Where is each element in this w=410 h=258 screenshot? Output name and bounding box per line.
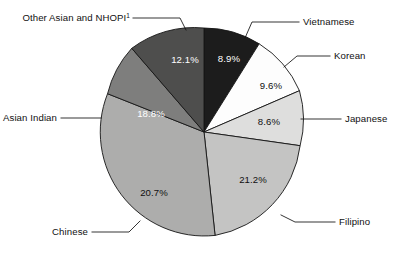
leader-line-chinese (92, 221, 140, 232)
value-label-vietnamese: 8.9% (218, 53, 241, 64)
category-label-other-asian-nhopi: Other Asian and NHOPI1 (22, 12, 130, 23)
leader-line-vietnamese (245, 22, 299, 38)
value-label-japanese: 8.6% (258, 116, 281, 127)
leader-line-other-asian-nhopi (133, 18, 186, 30)
category-label-filipino: Filipino (339, 216, 370, 227)
leader-line-filipino (281, 215, 335, 222)
category-label-korean: Korean (334, 50, 366, 61)
value-label-asian-indian: 18.8% (137, 108, 165, 119)
category-label-japanese: Japanese (345, 113, 387, 124)
value-label-filipino: 21.2% (239, 174, 267, 185)
category-label-vietnamese: Vietnamese (303, 16, 355, 27)
value-label-other-asian-nhopi: 12.1% (171, 54, 199, 65)
pie-chart-svg: 8.9% 9.6% 8.6% 21.2% 20.7% 18.8% 12.1% O… (0, 0, 410, 258)
leader-line-korean (284, 56, 330, 67)
pie-chart-figure: 8.9% 9.6% 8.6% 21.2% 20.7% 18.8% 12.1% O… (0, 0, 410, 258)
pie-slice-group (100, 28, 303, 236)
value-label-chinese: 20.7% (140, 187, 168, 198)
value-label-korean: 9.6% (260, 80, 283, 91)
category-label-asian-indian: Asian Indian (3, 112, 57, 123)
category-label-chinese: Chinese (52, 226, 88, 237)
